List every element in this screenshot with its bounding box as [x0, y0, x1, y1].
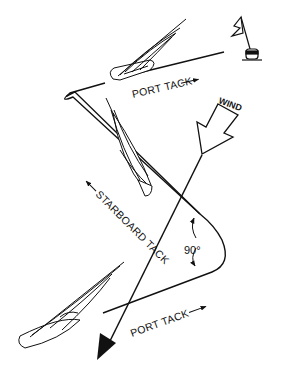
label-port-tack-bottom: PORT TACK — [129, 300, 208, 339]
flag-buoy-icon — [232, 17, 262, 60]
svg-text:PORT TACK: PORT TACK — [131, 74, 194, 100]
svg-text:STARBOARD TACK: STARBOARD TACK — [94, 188, 172, 266]
angle-marker — [192, 218, 196, 266]
wind-arrow-icon — [197, 104, 238, 154]
sailboat-middle — [106, 98, 152, 196]
tacking-diagram: PORT TACK STARBOARD TACK WIND 90° PORT T… — [0, 0, 281, 375]
sailboat-top — [110, 19, 186, 80]
label-starboard-tack: STARBOARD TACK — [82, 177, 172, 267]
svg-text:PORT TACK: PORT TACK — [129, 307, 191, 339]
label-port-tack-top: PORT TACK — [131, 73, 200, 100]
sailboat-bottom — [19, 262, 124, 348]
label-angle: 90° — [184, 244, 201, 256]
